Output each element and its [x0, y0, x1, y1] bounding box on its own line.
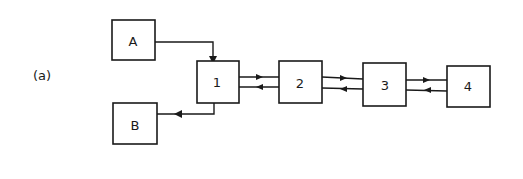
node-a-label: A: [129, 34, 138, 49]
diagram-canvas: (a) A B 1: [0, 0, 523, 179]
arrowhead-icon: [340, 86, 347, 92]
arrowhead-icon: [340, 75, 347, 81]
panel-label: (a): [33, 68, 51, 83]
edge-2-3-pair: [322, 75, 363, 92]
edge-1-2-pair: [239, 74, 279, 90]
node-3-label: 3: [381, 78, 389, 93]
node-4: 4: [447, 66, 490, 107]
node-a: A: [112, 20, 155, 60]
node-1: 1: [197, 61, 239, 103]
node-b: B: [113, 103, 157, 144]
arrowhead-icon: [256, 74, 263, 80]
node-2-label: 2: [296, 76, 304, 91]
edge-3-4-pair: [406, 77, 447, 93]
arrowhead-icon: [174, 110, 182, 118]
edge-1-to-b: [148, 103, 214, 118]
node-2: 2: [279, 61, 322, 103]
arrowhead-icon: [256, 84, 263, 90]
block-diagram: (a) A B 1: [0, 0, 523, 179]
node-3: 3: [363, 63, 406, 106]
arrowhead-icon: [423, 77, 430, 83]
node-1-label: 1: [213, 75, 221, 90]
node-4-label: 4: [464, 79, 472, 94]
node-b-label: B: [131, 118, 140, 133]
arrowhead-icon: [424, 87, 431, 93]
